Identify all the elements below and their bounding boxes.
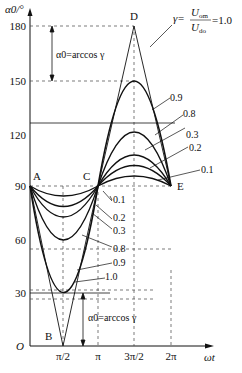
svg-text:30: 30 <box>15 287 27 299</box>
svg-text:0.3: 0.3 <box>113 225 126 236</box>
y-ticks: 180 150 120 90 60 30 O <box>10 20 27 352</box>
svg-text:0.8: 0.8 <box>183 108 196 119</box>
lower-series-labels: 0.1 0.2 0.3 0.8 0.9 1.0 <box>105 194 126 282</box>
annotation-top: α0=arccos γ <box>56 49 105 60</box>
svg-text:D: D <box>130 10 138 22</box>
guides <box>30 26 173 346</box>
svg-text:60: 60 <box>15 234 27 246</box>
annotation-bottom: α0=arccos γ <box>88 312 137 323</box>
svg-text:120: 120 <box>10 129 27 141</box>
svg-text:π: π <box>95 350 101 362</box>
curves <box>30 26 171 346</box>
svg-text:π/2: π/2 <box>56 350 70 362</box>
svg-text:0.1: 0.1 <box>113 194 126 205</box>
y-axis-label: α0/° <box>5 3 24 15</box>
svg-text:0.3: 0.3 <box>186 129 199 140</box>
svg-text:do: do <box>199 27 207 35</box>
svg-text:0.9: 0.9 <box>113 257 126 268</box>
curve-1.0 <box>30 26 171 346</box>
leaders <box>75 25 200 282</box>
svg-text:A: A <box>33 170 41 182</box>
svg-text:180: 180 <box>10 20 27 32</box>
svg-text:=1.0: =1.0 <box>212 14 232 26</box>
svg-text:E: E <box>177 180 184 192</box>
svg-text:0.1: 0.1 <box>201 164 214 175</box>
svg-text:B: B <box>45 330 52 342</box>
x-arrow-icon <box>205 344 214 349</box>
svg-text:0.2: 0.2 <box>113 212 126 223</box>
svg-text:0.2: 0.2 <box>189 142 202 153</box>
svg-text:3π/2: 3π/2 <box>124 350 144 362</box>
x-ticks: π/2 π 3π/2 2π <box>56 350 177 362</box>
diagram: 180 150 120 90 60 30 O α0/° π/2 π 3π/2 2… <box>0 0 242 373</box>
svg-text:2π: 2π <box>165 350 177 362</box>
svg-text:0.8: 0.8 <box>113 243 126 254</box>
y-arrow-icon <box>28 8 33 16</box>
x-axis-label: ωt <box>204 351 216 363</box>
svg-text:om: om <box>199 12 209 20</box>
svg-text:O: O <box>16 340 24 352</box>
svg-text:90: 90 <box>15 180 27 192</box>
svg-text:1.0: 1.0 <box>105 271 118 282</box>
svg-text:γ=: γ= <box>173 12 185 24</box>
svg-text:150: 150 <box>10 75 27 87</box>
upper-series-labels: 0.9 0.8 0.3 0.2 0.1 <box>170 92 214 175</box>
svg-text:0.9: 0.9 <box>170 92 183 103</box>
gamma-formula: γ= U om U do =1.0 <box>173 6 232 35</box>
curve-0.1-upper <box>98 176 171 186</box>
curve-0.1-lower <box>30 186 98 196</box>
svg-text:C: C <box>83 170 90 182</box>
